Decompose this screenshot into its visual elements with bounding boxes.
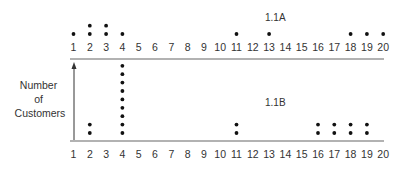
chart-b-dots xyxy=(88,64,369,135)
tick-label: 1 xyxy=(71,148,77,160)
chart-b-title: 1.1B xyxy=(265,97,286,108)
tick-label: 12 xyxy=(247,41,259,53)
tick-label: 7 xyxy=(168,41,174,53)
tick-label: 3 xyxy=(103,148,109,160)
data-dot xyxy=(121,131,125,135)
chart-b-tick-labels: 1234567891011121314151617181920 xyxy=(71,148,390,160)
data-dot xyxy=(365,32,369,36)
tick-label: 13 xyxy=(263,41,275,53)
tick-label: 11 xyxy=(231,148,242,160)
tick-label: 5 xyxy=(136,148,142,160)
tick-label: 7 xyxy=(168,148,174,160)
tick-label: 8 xyxy=(185,148,191,160)
data-dot xyxy=(381,32,385,36)
y-axis: Number of Customers xyxy=(15,62,77,140)
tick-label: 16 xyxy=(312,148,324,160)
data-dot xyxy=(121,89,125,93)
tick-label: 17 xyxy=(328,148,340,160)
data-dot xyxy=(235,32,239,36)
tick-label: 10 xyxy=(214,41,226,53)
data-dot xyxy=(88,32,92,36)
data-dot xyxy=(349,123,353,127)
data-dot xyxy=(121,32,125,36)
tick-label: 14 xyxy=(280,41,292,53)
data-dot xyxy=(88,24,92,28)
data-dot xyxy=(88,131,92,135)
tick-label: 6 xyxy=(152,41,158,53)
tick-label: 9 xyxy=(201,41,207,53)
tick-label: 14 xyxy=(280,148,292,160)
tick-label: 15 xyxy=(296,41,308,53)
tick-label: 9 xyxy=(201,148,207,160)
tick-label: 18 xyxy=(345,148,357,160)
data-dot xyxy=(365,131,369,135)
chart-a-dots xyxy=(72,24,386,36)
tick-label: 20 xyxy=(377,41,389,53)
dot-plot-figure: 1.1A 1234567891011121314151617181920 Num… xyxy=(0,0,405,172)
tick-label: 8 xyxy=(185,41,191,53)
data-dot xyxy=(88,123,92,127)
tick-label: 16 xyxy=(312,41,324,53)
data-dot xyxy=(121,72,125,76)
data-dot xyxy=(316,123,320,127)
tick-label: 12 xyxy=(247,148,259,160)
chart-a-title: 1.1A xyxy=(265,12,286,23)
y-axis-label: Number of Customers xyxy=(15,79,66,119)
data-dot xyxy=(121,106,125,110)
chart-a-tick-labels: 1234567891011121314151617181920 xyxy=(71,41,390,53)
tick-label: 4 xyxy=(119,41,125,53)
data-dot xyxy=(121,123,125,127)
tick-label: 19 xyxy=(361,148,373,160)
tick-label: 3 xyxy=(103,41,109,53)
data-dot xyxy=(332,123,336,127)
data-dot xyxy=(316,131,320,135)
tick-label: 19 xyxy=(361,41,373,53)
data-dot xyxy=(332,131,336,135)
tick-label: 11 xyxy=(231,41,242,53)
data-dot xyxy=(104,24,108,28)
data-dot xyxy=(235,131,239,135)
tick-label: 20 xyxy=(377,148,389,160)
data-dot xyxy=(121,98,125,102)
tick-label: 13 xyxy=(263,148,275,160)
tick-label: 1 xyxy=(71,41,77,53)
data-dot xyxy=(121,81,125,85)
arrow-up-icon xyxy=(72,62,77,69)
data-dot xyxy=(121,114,125,118)
data-dot xyxy=(104,32,108,36)
tick-label: 6 xyxy=(152,148,158,160)
tick-label: 2 xyxy=(87,41,93,53)
data-dot xyxy=(267,32,271,36)
data-dot xyxy=(349,131,353,135)
tick-label: 17 xyxy=(328,41,340,53)
tick-label: 10 xyxy=(214,148,226,160)
chart-a: 1.1A 1234567891011121314151617181920 xyxy=(70,12,389,59)
data-dot xyxy=(349,32,353,36)
data-dot xyxy=(121,64,125,68)
data-dot xyxy=(72,32,76,36)
chart-b: 1.1B 1234567891011121314151617181920 xyxy=(70,64,389,160)
tick-label: 2 xyxy=(87,148,93,160)
tick-label: 18 xyxy=(345,41,357,53)
tick-label: 4 xyxy=(119,148,125,160)
data-dot xyxy=(365,123,369,127)
tick-label: 5 xyxy=(136,41,142,53)
tick-label: 15 xyxy=(296,148,308,160)
data-dot xyxy=(235,123,239,127)
